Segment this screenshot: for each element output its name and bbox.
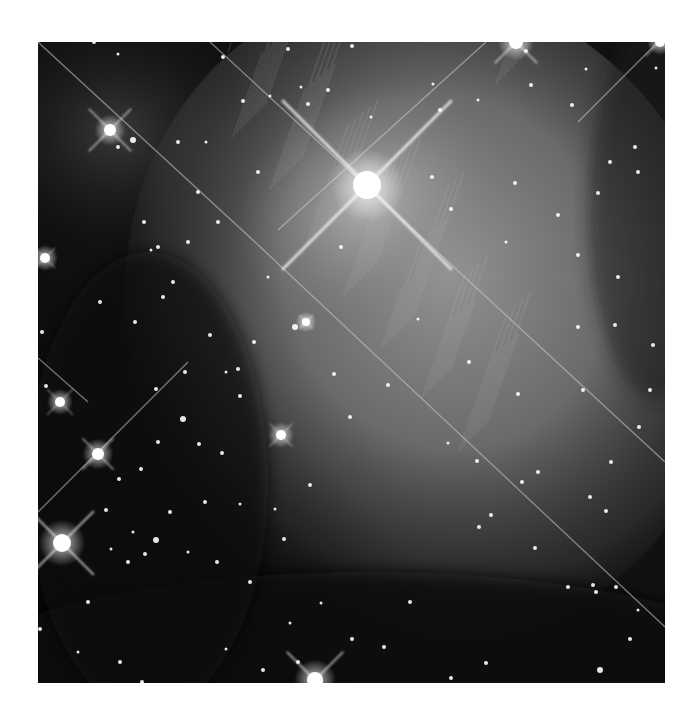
star [205, 141, 208, 144]
star [44, 384, 48, 388]
star [156, 245, 160, 249]
star [225, 371, 228, 374]
star [417, 318, 420, 321]
star [203, 500, 207, 504]
star [536, 470, 540, 474]
star [533, 546, 537, 550]
star [516, 392, 520, 396]
star [386, 383, 390, 387]
star-core [92, 448, 104, 460]
star [208, 333, 212, 337]
star [197, 442, 201, 446]
star [98, 300, 102, 304]
star [126, 560, 130, 564]
star [241, 99, 245, 103]
star [609, 460, 613, 464]
star [614, 585, 618, 589]
star [637, 609, 640, 612]
star [133, 320, 137, 324]
star [252, 340, 256, 344]
star [187, 551, 190, 554]
star [556, 213, 560, 217]
star [648, 388, 652, 392]
star [432, 83, 435, 86]
star [636, 170, 640, 174]
star [628, 637, 632, 641]
star [110, 548, 113, 551]
star [183, 370, 187, 374]
star [215, 560, 219, 564]
star [566, 585, 570, 589]
star [104, 508, 108, 512]
star-core [302, 318, 310, 326]
star [142, 220, 146, 224]
star [581, 388, 585, 392]
star [585, 68, 588, 71]
star [370, 116, 373, 119]
star-core [55, 397, 65, 407]
star-core [53, 534, 71, 552]
star [117, 53, 120, 56]
star [594, 590, 598, 594]
bright-star [296, 312, 317, 333]
star [221, 55, 225, 59]
star [150, 249, 153, 252]
star [505, 241, 508, 244]
star-core [353, 171, 381, 199]
star [637, 425, 641, 429]
star [430, 175, 434, 179]
star [269, 95, 272, 98]
star [156, 440, 160, 444]
star [570, 103, 574, 107]
bright-star [89, 109, 131, 151]
star [239, 503, 242, 506]
bright-star [82, 438, 113, 469]
star [596, 191, 600, 195]
star [248, 580, 252, 584]
star [238, 394, 242, 398]
star [180, 416, 186, 422]
star [326, 88, 330, 92]
star [130, 137, 136, 143]
star [616, 275, 620, 279]
star [604, 509, 608, 513]
star [320, 602, 323, 605]
star [261, 668, 265, 672]
star [576, 325, 580, 329]
star [467, 360, 471, 364]
star [449, 676, 453, 680]
star [216, 220, 220, 224]
star [38, 627, 42, 631]
star [350, 44, 354, 48]
star [308, 483, 312, 487]
star [332, 372, 336, 376]
bright-star [268, 422, 294, 448]
star [306, 102, 310, 106]
star [651, 343, 655, 347]
star [339, 245, 343, 249]
star [220, 451, 224, 455]
star [132, 531, 135, 534]
star [475, 459, 479, 463]
star [143, 552, 147, 556]
star [176, 140, 180, 144]
star [576, 253, 580, 257]
star [382, 645, 386, 649]
star [77, 651, 80, 654]
star [117, 477, 121, 481]
star [274, 508, 277, 511]
star [477, 99, 480, 102]
star [139, 467, 143, 471]
star [186, 240, 190, 244]
star [655, 67, 658, 70]
star [86, 600, 90, 604]
star-core [276, 430, 286, 440]
star [477, 525, 481, 529]
star [154, 387, 158, 391]
star [588, 495, 592, 499]
star [267, 276, 270, 279]
star [153, 537, 159, 543]
star [529, 83, 533, 87]
star-field [38, 42, 665, 683]
star [116, 145, 120, 149]
